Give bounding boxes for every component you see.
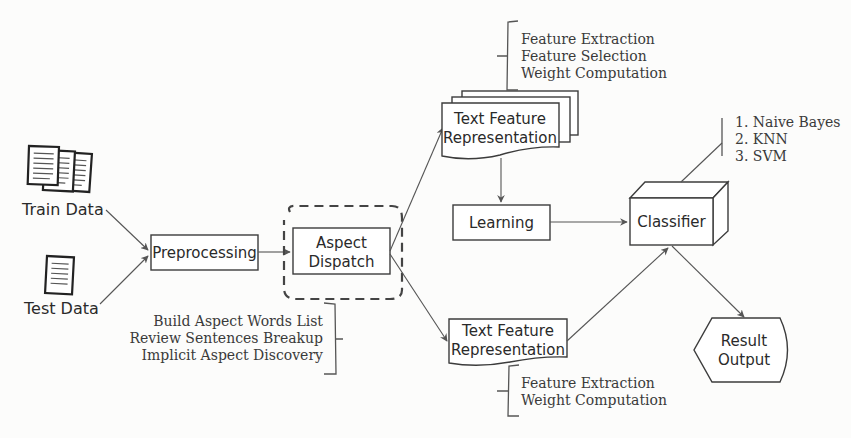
edge-aspect-to-tfr-train <box>390 128 443 251</box>
test-features-list: Feature Extraction Weight Computation <box>521 375 667 408</box>
document-icon <box>45 256 74 294</box>
train-feature-3: Weight Computation <box>521 65 667 81</box>
preprocessing-node: Preprocessing <box>151 235 258 270</box>
result-output-line1: Result <box>721 332 767 350</box>
edge-test-to-preprocessing <box>100 256 148 304</box>
tfr-test-node: Text Feature Representation <box>449 319 567 365</box>
aspect-steps-list: Build Aspect Words List Review Sentences… <box>129 313 323 363</box>
test-feature-2: Weight Computation <box>521 392 667 408</box>
classifier-list-connector <box>681 143 722 182</box>
aspect-dispatch-line2: Dispatch <box>309 253 375 271</box>
aspect-steps-brace <box>324 303 343 374</box>
train-feature-1: Feature Extraction <box>521 31 655 47</box>
result-output-line2: Output <box>718 351 770 369</box>
edge-tfr-test-to-classifier <box>567 248 668 341</box>
tfr-test-line2: Representation <box>451 341 565 359</box>
aspect-step-2: Review Sentences Breakup <box>129 330 323 346</box>
edge-aspect-to-tfr-test <box>390 254 447 341</box>
test-features-brace <box>497 365 519 416</box>
tfr-train-node: Text Feature Representation <box>442 91 578 159</box>
test-data-label: Test Data <box>23 299 99 318</box>
learning-node: Learning <box>453 205 550 240</box>
aspect-dispatch-node: Aspect Dispatch <box>293 228 390 274</box>
classifier-algorithms-list: 1. Naive Bayes 2. KNN 3. SVM <box>735 114 841 164</box>
tfr-test-line1: Text Feature <box>461 322 554 340</box>
algorithm-1: 1. Naive Bayes <box>735 114 841 130</box>
learning-label: Learning <box>469 214 534 232</box>
sentiment-classification-diagram: Train Data Test Data Preprocessing Aspec… <box>0 0 851 438</box>
edge-train-to-preprocessing <box>106 210 148 250</box>
tfr-train-line2: Representation <box>443 129 557 147</box>
document-stack-icon <box>28 146 92 192</box>
edge-classifier-to-result <box>672 246 744 317</box>
aspect-step-3: Implicit Aspect Discovery <box>141 347 323 363</box>
train-data-label: Train Data <box>21 200 104 219</box>
classifier-node: Classifier <box>630 182 728 245</box>
aspect-dispatch-line1: Aspect <box>316 234 367 252</box>
classifier-label: Classifier <box>637 213 706 231</box>
test-feature-1: Feature Extraction <box>521 375 655 391</box>
algorithm-3: 3. SVM <box>735 148 787 164</box>
train-features-brace <box>497 21 518 90</box>
train-feature-2: Feature Selection <box>521 48 647 64</box>
algorithm-2: 2. KNN <box>735 131 788 147</box>
train-features-list: Feature Extraction Feature Selection Wei… <box>521 31 667 81</box>
tfr-train-line1: Text Feature <box>453 110 546 128</box>
result-output-node: Result Output <box>694 318 788 382</box>
aspect-step-1: Build Aspect Words List <box>153 313 323 329</box>
preprocessing-label: Preprocessing <box>152 244 257 262</box>
